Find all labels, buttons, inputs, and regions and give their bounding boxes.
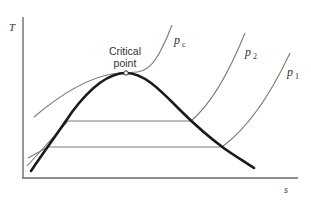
x-axis-label: s [284, 184, 288, 195]
svg-text:p: p [286, 65, 293, 79]
critical-point-label-line1: Critical [109, 45, 141, 57]
critical-point-marker [124, 71, 128, 75]
saturation-dome [31, 73, 254, 171]
isobar-pc [34, 25, 172, 117]
svg-text:1: 1 [295, 72, 299, 81]
critical-point-label-line2: point [114, 57, 137, 69]
label-p2: p 2 [244, 45, 257, 61]
svg-text:2: 2 [253, 52, 257, 61]
ts-diagram: T s Critical point p c p 2 p 1 [0, 0, 311, 201]
y-axis-label: T [9, 21, 16, 33]
svg-text:p: p [244, 45, 251, 59]
svg-text:c: c [182, 40, 186, 49]
svg-text:p: p [173, 33, 180, 47]
isobar-p1 [28, 53, 290, 158]
label-p1: p 1 [286, 65, 299, 81]
label-pc: p c [173, 33, 186, 49]
